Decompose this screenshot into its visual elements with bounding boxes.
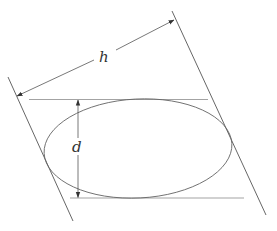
h-dimension-line-right xyxy=(116,20,174,50)
right-slanted-line xyxy=(172,11,266,215)
left-slanted-line xyxy=(8,77,73,221)
d-label: d xyxy=(72,138,82,156)
h-label: h xyxy=(99,48,109,66)
ellipse-diagram: h d xyxy=(0,0,277,231)
ellipse xyxy=(42,94,235,203)
h-dimension-line-left xyxy=(17,60,94,96)
